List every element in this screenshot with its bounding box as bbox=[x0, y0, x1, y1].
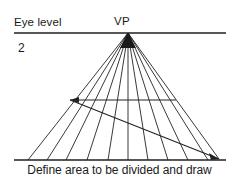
ray-1 bbox=[28, 33, 128, 160]
ray-11 bbox=[128, 33, 219, 159]
perspective-diagram: Eye level VP 2 Define area to be divided… bbox=[0, 0, 239, 186]
vanishing-point-label: VP bbox=[114, 16, 130, 28]
diagonal-division-line bbox=[70, 100, 219, 159]
vanishing-point-rays bbox=[28, 33, 219, 160]
ray-10 bbox=[128, 33, 208, 160]
ray-8 bbox=[128, 33, 168, 160]
ray-5 bbox=[108, 33, 128, 160]
ray-7 bbox=[128, 33, 148, 160]
ray-4 bbox=[87, 33, 128, 160]
figure-caption: Define area to be divided and draw bbox=[0, 164, 239, 176]
eye-level-label: Eye level bbox=[14, 17, 62, 29]
ray-9 bbox=[128, 33, 188, 160]
step-number-label: 2 bbox=[18, 42, 25, 54]
ray-3 bbox=[66, 33, 128, 160]
ray-2 bbox=[47, 33, 128, 160]
